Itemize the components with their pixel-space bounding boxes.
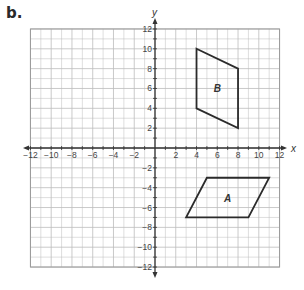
x-tick-label: −4: [109, 150, 119, 160]
x-tick-label: −2: [129, 150, 139, 160]
x-tick-label: 12: [275, 150, 285, 160]
shape-label-b: B: [214, 83, 221, 94]
y-tick-label: 4: [147, 103, 152, 113]
x-axis-label: x: [290, 143, 297, 154]
x-tick-label: 10: [254, 150, 264, 160]
y-axis-label: y: [151, 7, 158, 18]
y-tick-label: −4: [142, 183, 152, 193]
x-tick-label: 2: [173, 150, 178, 160]
y-axis-down-arrow-icon: [153, 272, 158, 278]
y-tick-label: −2: [142, 163, 152, 173]
x-tick-label: −10: [44, 150, 59, 160]
y-tick-label: 2: [147, 123, 152, 133]
coordinate-plane: −12−10−8−6−4−22468101212108642−2−4−6−8−1…: [0, 0, 304, 290]
x-tick-label: −8: [67, 150, 77, 160]
y-tick-label: 12: [143, 24, 153, 34]
shape-label-a: A: [223, 193, 231, 204]
y-tick-label: 10: [143, 44, 153, 54]
y-tick-label: 6: [147, 83, 152, 93]
x-tick-label: 4: [194, 150, 199, 160]
y-tick-label: −6: [142, 203, 152, 213]
y-axis-up-arrow-icon: [153, 18, 158, 24]
y-tick-label: −10: [138, 242, 153, 252]
x-tick-label: −6: [88, 150, 98, 160]
y-tick-label: 8: [147, 64, 152, 74]
y-tick-label: −8: [142, 222, 152, 232]
x-tick-label: 6: [215, 150, 220, 160]
y-tick-label: −12: [138, 262, 153, 272]
x-tick-label: −12: [23, 150, 38, 160]
x-tick-label: 8: [236, 150, 241, 160]
